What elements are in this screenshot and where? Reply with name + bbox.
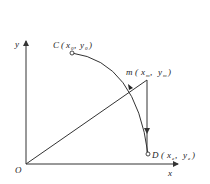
- point-d-marker: [146, 152, 150, 156]
- label-d: D ( x e , y e ): [151, 150, 195, 161]
- paren-open: (: [135, 67, 139, 77]
- paren-close: ): [167, 67, 171, 77]
- point-m-name: m: [126, 67, 133, 77]
- point-c-marker: [70, 51, 74, 55]
- paren-close: ): [191, 150, 195, 160]
- point-m-y-var: y: [157, 67, 162, 77]
- point-m-y-sub: m: [163, 73, 167, 78]
- y-axis-label: y: [14, 39, 19, 49]
- arc-arrow-icon: [128, 84, 133, 90]
- arc-interpolation-diagram: y x O C ( x 0 , y 0 ) m ( x m , y m ) D …: [0, 0, 210, 184]
- point-d-y-var: y: [182, 150, 187, 160]
- comma: ,: [175, 150, 177, 160]
- point-d-y-sub: e: [188, 156, 191, 161]
- point-c-x-var: x: [65, 40, 70, 50]
- comma: ,: [150, 67, 152, 77]
- paren-open: (: [61, 40, 65, 50]
- x-axis-label: x: [167, 168, 172, 178]
- origin-label: O: [15, 165, 22, 175]
- point-c-y-sub: 0: [85, 46, 88, 51]
- paren-open: (: [161, 150, 165, 160]
- label-c: C ( x 0 , y 0 ): [53, 40, 92, 51]
- line-o-to-m: [26, 80, 147, 164]
- point-d-x-var: x: [166, 150, 171, 160]
- point-c-name: C: [53, 40, 60, 50]
- paren-close: ): [88, 40, 92, 50]
- point-c-y-var: y: [79, 40, 84, 50]
- point-m-x-var: x: [140, 67, 145, 77]
- label-m: m ( x m , y m ): [126, 67, 171, 78]
- comma: ,: [74, 40, 76, 50]
- point-d-name: D: [151, 150, 159, 160]
